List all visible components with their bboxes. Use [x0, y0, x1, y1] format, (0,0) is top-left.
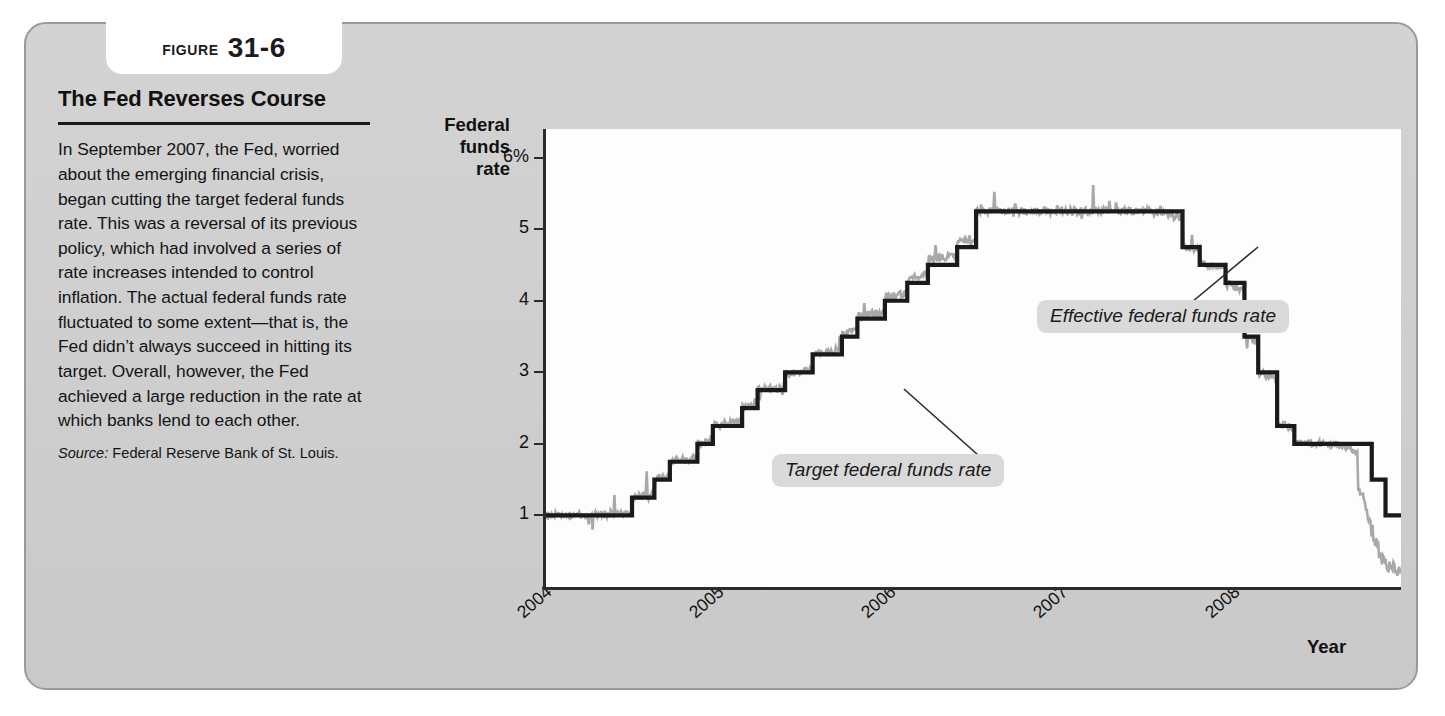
y-tick-mark [534, 228, 543, 230]
figure-number-tab: Figure 31-6 [106, 22, 342, 74]
annotation-effective-rate: Effective federal funds rate [1037, 300, 1289, 333]
leader-line-effective [1186, 247, 1258, 307]
y-tick-mark [534, 443, 543, 445]
caption-source-label: Source: [58, 445, 108, 461]
y-axis-title-line1: Federal [444, 114, 510, 135]
y-tick-label: 5 [469, 217, 529, 238]
caption-body: In September 2007, the Fed, worried abou… [58, 137, 370, 433]
y-tick-mark [534, 371, 543, 373]
caption-source: Source: Federal Reserve Bank of St. Loui… [58, 444, 370, 463]
figure-label: Figure [162, 37, 219, 60]
y-tick-mark [534, 157, 543, 159]
figure-number: 31-6 [228, 32, 286, 64]
y-tick-label: 3 [469, 360, 529, 381]
caption-title: The Fed Reverses Course [58, 86, 376, 111]
chart-plot [546, 129, 1401, 587]
effective-rate-line [546, 185, 1401, 576]
series-effective-federal-funds-rate [546, 185, 1401, 576]
figure-card: Figure 31-6 The Fed Reverses Course In S… [24, 22, 1418, 690]
y-tick-label: 6% [469, 146, 529, 167]
y-tick-mark [534, 514, 543, 516]
caption-source-text: Federal Reserve Bank of St. Louis. [112, 445, 338, 461]
y-tick-mark [534, 300, 543, 302]
caption-column: The Fed Reverses Course In September 200… [58, 86, 376, 463]
annotation-target-rate: Target federal funds rate [772, 454, 1004, 487]
figure-page: Figure 31-6 The Fed Reverses Course In S… [0, 0, 1445, 716]
chart-area: Federal funds rate 6%54321 2004200520062… [382, 84, 1402, 684]
y-tick-label: 4 [469, 289, 529, 310]
y-tick-label: 2 [469, 432, 529, 453]
plot-frame [543, 129, 1401, 590]
caption-divider [58, 122, 370, 125]
x-axis-title: Year [1307, 636, 1346, 658]
leader-line-target [904, 389, 978, 455]
y-tick-label: 1 [469, 503, 529, 524]
annotation-leader-lines [904, 247, 1258, 455]
